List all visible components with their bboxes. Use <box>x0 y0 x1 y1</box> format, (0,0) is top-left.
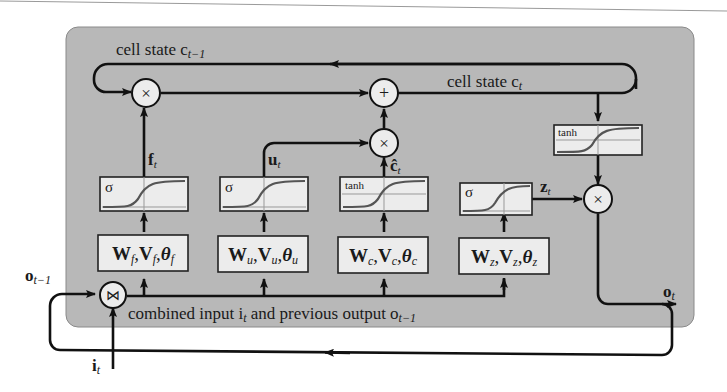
input-label: it <box>92 356 101 377</box>
svg-text:×: × <box>141 84 151 103</box>
prev-output-label: ot−1 <box>25 266 51 287</box>
svg-text:×: × <box>593 190 603 209</box>
svg-text:σ: σ <box>105 179 113 195</box>
update-sigmoid-box: σ <box>220 177 308 211</box>
candidate-tanh-box: tanh <box>340 177 428 211</box>
svg-text:tanh: tanh <box>345 179 364 191</box>
combined-input-label: combined input it and previous output ot… <box>128 304 416 325</box>
output-multiply-node: × <box>584 185 612 213</box>
svg-text:×: × <box>379 134 389 153</box>
svg-text:tanh: tanh <box>558 126 577 138</box>
forget-sigmoid-box: σ <box>100 177 188 211</box>
svg-text:Wf,Vf,θf: Wf,Vf,θf <box>112 243 176 266</box>
svg-text:σ: σ <box>465 184 473 200</box>
candidate-multiply-node: × <box>370 129 398 157</box>
output-params-box: Wz,Vz,θz <box>459 238 549 274</box>
candidate-params-box: Wc,Vc,θc <box>338 237 428 273</box>
svg-text:⋈: ⋈ <box>106 288 120 303</box>
forget-multiply-node: × <box>132 79 160 107</box>
cell-state-cur-label: cell state ct <box>447 72 523 93</box>
update-params-box: Wu,Vu,θu <box>218 236 308 272</box>
svg-text:+: + <box>379 83 389 103</box>
feedback-arrow <box>325 353 350 354</box>
output-tanh-box: tanh <box>554 125 642 155</box>
page-rule <box>0 1 727 11</box>
svg-text:σ: σ <box>225 179 233 195</box>
svg-text:Wu,Vu,θu: Wu,Vu,θu <box>228 244 298 267</box>
output-sigmoid-box: σ <box>460 183 532 215</box>
svg-text:Wz,Vz,θz: Wz,Vz,θz <box>471 246 537 269</box>
forget-params-box: Wf,Vf,θf <box>98 235 188 271</box>
concat-node: ⋈ <box>100 282 126 308</box>
svg-text:Wc,Vc,θc: Wc,Vc,θc <box>349 245 418 268</box>
add-node: + <box>370 79 398 107</box>
lstm-diagram: × + × × ⋈ σ σ tanh <box>0 0 727 392</box>
